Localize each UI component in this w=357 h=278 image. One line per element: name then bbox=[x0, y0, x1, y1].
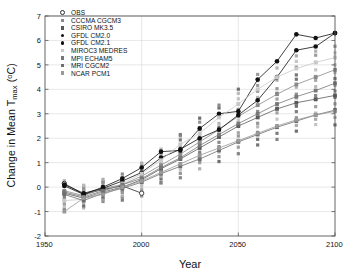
y-tick-4: 4 bbox=[27, 85, 41, 94]
legend-item-6[interactable]: MPI ECHAM5 bbox=[58, 54, 127, 62]
legend-item-label: MRI CGCM2 bbox=[71, 62, 109, 69]
y-tick-2: 2 bbox=[27, 134, 41, 143]
y-axis-title-unit: C) bbox=[5, 63, 17, 74]
x-tick-2000: 2000 bbox=[133, 240, 150, 249]
filled-square-icon bbox=[58, 71, 67, 74]
legend-item-label: CCCMA CGCM3 bbox=[71, 17, 121, 24]
y-axis-title-paren: ( bbox=[5, 79, 17, 86]
y-tick-0: 0 bbox=[27, 183, 41, 192]
legend-item-7[interactable]: MRI CGCM2 bbox=[58, 62, 127, 70]
y-axis-title: Change in Mean Tmax (oC) bbox=[5, 25, 20, 225]
open-circle-icon bbox=[58, 10, 67, 15]
legend-item-label: GFDL CM2.1 bbox=[71, 39, 110, 46]
filled-circle-icon bbox=[58, 41, 67, 44]
y-tick--2: -2 bbox=[27, 232, 41, 241]
legend-item-label: MPI ECHAM5 bbox=[71, 55, 113, 62]
chart-figure: Change in Mean Tmax (oC) Year OBSCCCMA C… bbox=[0, 0, 357, 278]
y-tick-3: 3 bbox=[27, 110, 41, 119]
x-tick-2050: 2050 bbox=[229, 240, 246, 249]
y-tick-5: 5 bbox=[27, 61, 41, 70]
degree-icon: o bbox=[5, 74, 14, 78]
legend-item-label: CSIRO MK3.5 bbox=[71, 24, 113, 31]
legend-item-label: MIROC3 MEDRES bbox=[71, 47, 127, 54]
legend-item-0[interactable]: OBS bbox=[58, 9, 127, 17]
legend-item-5[interactable]: MIROC3 MEDRES bbox=[58, 47, 127, 55]
legend-item-label: OBS bbox=[71, 9, 85, 16]
x-tick-1950: 1950 bbox=[36, 240, 53, 249]
y-tick--1: -1 bbox=[27, 208, 41, 217]
y-tick-1: 1 bbox=[27, 159, 41, 168]
filled-circle-icon bbox=[58, 34, 67, 37]
filled-square-icon bbox=[58, 49, 67, 52]
legend-item-label: GFDL CM2.0 bbox=[71, 32, 110, 39]
legend-item-label: NCAR PCM1 bbox=[71, 70, 110, 77]
x-axis-title: Year bbox=[110, 258, 270, 270]
chart-legend: OBSCCCMA CGCM3CSIRO MK3.5GFDL CM2.0GFDL … bbox=[58, 9, 127, 77]
y-tick-6: 6 bbox=[27, 36, 41, 45]
chart-plot-area bbox=[0, 0, 357, 278]
filled-square-icon bbox=[58, 26, 67, 29]
y-axis-title-main: Change in Mean T bbox=[5, 100, 17, 188]
legend-item-2[interactable]: CSIRO MK3.5 bbox=[58, 24, 127, 32]
legend-item-4[interactable]: GFDL CM2.1 bbox=[58, 39, 127, 47]
y-tick-7: 7 bbox=[27, 12, 41, 21]
legend-item-1[interactable]: CCCMA CGCM3 bbox=[58, 17, 127, 25]
legend-item-8[interactable]: NCAR PCM1 bbox=[58, 69, 127, 77]
y-axis-title-sub: max bbox=[10, 85, 19, 99]
legend-item-3[interactable]: GFDL CM2.0 bbox=[58, 32, 127, 40]
x-tick-2100: 2100 bbox=[326, 240, 343, 249]
filled-square-icon bbox=[58, 19, 67, 22]
filled-square-icon bbox=[58, 64, 67, 67]
filled-square-icon bbox=[58, 56, 67, 59]
